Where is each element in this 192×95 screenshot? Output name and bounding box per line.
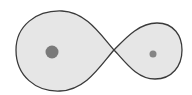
primary-mass-dot — [46, 46, 59, 59]
roche-lobe-diagram — [0, 0, 192, 95]
diagram-canvas — [0, 0, 192, 95]
secondary-lobe — [114, 23, 182, 79]
secondary-mass-dot — [150, 51, 157, 58]
primary-lobe — [16, 11, 114, 91]
